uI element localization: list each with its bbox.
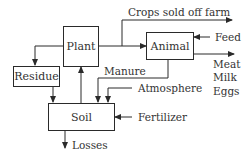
manure-label: Manure — [104, 66, 146, 77]
plant-node: Plant — [63, 26, 99, 67]
animal-node: Animal — [146, 32, 194, 60]
animal-label: Animal — [147, 33, 193, 59]
losses-label: Losses — [72, 140, 108, 151]
feed-label: Feed — [215, 32, 241, 43]
crops-sold-off-farm-label: Crops sold off farm — [128, 7, 230, 18]
edge-plant-residue — [35, 46, 63, 65]
milk-label: Milk — [213, 72, 237, 83]
edge-atmosphere — [108, 88, 132, 102]
residue-node: Residue — [13, 66, 60, 87]
soil-node: Soil — [48, 103, 115, 131]
eggs-label: Eggs — [213, 86, 240, 97]
residue-label: Residue — [14, 67, 59, 86]
atmosphere-label: Atmosphere — [138, 83, 202, 94]
meat-label: Meat — [213, 59, 240, 70]
soil-label: Soil — [49, 104, 114, 130]
plant-label: Plant — [64, 27, 98, 66]
fertilizer-label: Fertilizer — [138, 112, 187, 123]
nutrient-cycle-diagram: Plant Animal Residue Soil Crops sold off… — [0, 0, 250, 157]
